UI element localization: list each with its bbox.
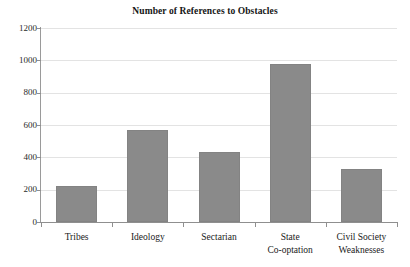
gridline-1200 — [41, 28, 397, 29]
x-tick-mark-3 — [326, 222, 327, 227]
chart-title: Number of References to Obstacles — [0, 5, 410, 17]
x-tick-mark-4 — [397, 222, 398, 227]
y-tick-label-200: 200 — [3, 185, 37, 194]
y-tick-label-600: 600 — [3, 121, 37, 130]
y-tick-mark-1200 — [37, 28, 41, 29]
x-tick-mark-1 — [183, 222, 184, 227]
x-category-label-3: State Co-optation — [255, 231, 326, 256]
x-tick-mark-0 — [112, 222, 113, 227]
y-tick-mark-600 — [37, 125, 41, 126]
bar-chart-figure: Number of References to Obstacles 020040… — [0, 0, 410, 267]
y-tick-label-1200: 1200 — [3, 24, 37, 33]
gridline-600 — [41, 125, 397, 126]
x-tick-mark-origin — [41, 222, 42, 227]
x-axis-line — [40, 222, 398, 223]
x-category-label-4: Civil Society Weaknesses — [326, 231, 397, 256]
x-tick-mark-2 — [255, 222, 256, 227]
bar-civil-society-weaknesses — [341, 169, 382, 222]
gridline-1000 — [41, 60, 397, 61]
bar-state-co-optation — [270, 64, 311, 222]
x-category-label-2: Sectarian — [183, 231, 254, 244]
x-category-label-0: Tribes — [41, 231, 112, 244]
y-tick-label-1000: 1000 — [3, 56, 37, 65]
y-tick-mark-1000 — [37, 60, 41, 61]
bar-tribes — [56, 186, 97, 222]
bar-ideology — [127, 130, 168, 222]
gridline-800 — [41, 93, 397, 94]
y-tick-mark-400 — [37, 157, 41, 158]
y-axis-tick-labels: 020040060080010001200 — [0, 0, 37, 267]
y-tick-label-0: 0 — [3, 218, 37, 227]
y-tick-label-800: 800 — [3, 88, 37, 97]
y-tick-mark-800 — [37, 93, 41, 94]
y-tick-mark-200 — [37, 190, 41, 191]
bar-sectarian — [199, 152, 240, 222]
y-tick-label-400: 400 — [3, 153, 37, 162]
x-category-label-1: Ideology — [112, 231, 183, 244]
